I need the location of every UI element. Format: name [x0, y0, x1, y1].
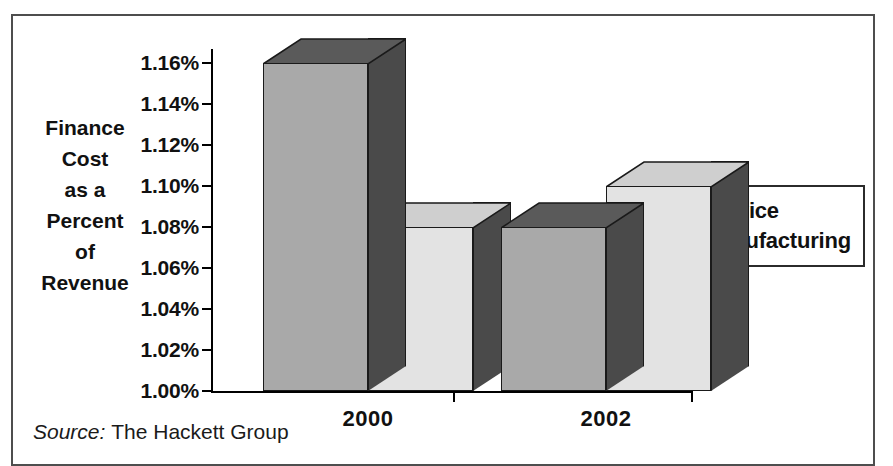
y-axis-tick-label: 1.12%: [140, 133, 199, 157]
y-axis-tick: [202, 267, 212, 269]
bar-top-face: [606, 161, 749, 188]
y-axis-tick-label: 1.10%: [140, 174, 199, 198]
bar-top-face: [263, 38, 406, 65]
bar-service-2000[interactable]: [263, 38, 368, 391]
y-axis-tick-label: 1.04%: [140, 297, 199, 321]
source-value: The Hackett Group: [111, 420, 288, 443]
chart-title: Finance Cost as a Percent of Revenue: [0, 0, 893, 5]
x-axis-group-separator-tick: [453, 393, 455, 402]
y-axis-title-line: Cost: [31, 143, 139, 174]
y-axis-title-line: of: [31, 236, 139, 267]
y-axis-tick-label: 1.00%: [140, 379, 199, 403]
x-axis-end-tick: [691, 393, 693, 402]
y-axis-tick: [202, 185, 212, 187]
x-axis-category-label: 2000: [343, 406, 394, 432]
y-axis-line: [211, 49, 213, 393]
x-axis-category-label: 2002: [581, 406, 632, 432]
bar-side-face: [606, 202, 644, 391]
y-axis-title-line: Percent: [31, 205, 139, 236]
y-axis-tick: [202, 390, 212, 392]
bar-side-face: [368, 38, 406, 391]
plot-area: 1.00%1.02%1.04%1.06%1.08%1.10%1.12%1.14%…: [211, 34, 771, 379]
y-axis-tick-label: 1.06%: [140, 256, 199, 280]
y-axis-tick-label: 1.14%: [140, 92, 199, 116]
y-axis-title-line: as a: [31, 174, 139, 205]
y-axis-tick-label: 1.16%: [140, 51, 199, 75]
source-note: Source: The Hackett Group: [33, 420, 289, 444]
y-axis-tick: [202, 308, 212, 310]
y-axis-tick: [202, 62, 212, 64]
x-axis-line: [211, 391, 693, 393]
bar-top-face: [501, 202, 644, 229]
bar-front-face: [263, 63, 368, 391]
y-axis-tick-label: 1.02%: [140, 338, 199, 362]
bar-service-2002[interactable]: [501, 202, 606, 391]
y-axis-tick: [202, 103, 212, 105]
chart-title-strip: Finance Cost as a Percent of Revenue: [0, 0, 893, 13]
y-axis-tick: [202, 349, 212, 351]
chart-frame: Finance Cost as a Percent of Revenue 1.0…: [11, 14, 875, 466]
y-axis-tick-label: 1.08%: [140, 215, 199, 239]
bar-front-face: [501, 227, 606, 391]
bar-side-face: [711, 161, 749, 391]
y-axis-tick: [202, 144, 212, 146]
y-axis-tick: [202, 226, 212, 228]
source-label: Source:: [33, 420, 105, 443]
y-axis-title-line: Finance: [31, 112, 139, 143]
y-axis-title-line: Revenue: [31, 267, 139, 298]
y-axis-title: Finance Cost as a Percent of Revenue: [31, 112, 139, 298]
